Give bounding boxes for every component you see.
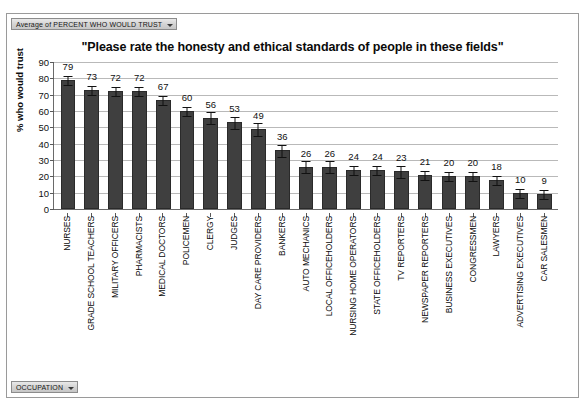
- x-axis-tick-label: TV REPORTERS: [396, 216, 406, 281]
- bar-slot: 24: [342, 62, 366, 209]
- chevron-down-icon: [68, 387, 74, 390]
- error-bar: [306, 161, 307, 174]
- bar[interactable]: 60: [180, 111, 195, 209]
- error-bar: [163, 96, 164, 106]
- bar-value-label: 24: [348, 151, 359, 162]
- y-axis-tick-label: 90: [38, 57, 49, 68]
- y-axis-tick-label: 30: [38, 155, 49, 166]
- x-axis-tick-label: GRADE SCHOOL TEACHERS: [86, 216, 96, 331]
- pivot-field-series-button[interactable]: Average of PERCENT WHO WOULD TRUST: [11, 18, 177, 30]
- y-axis-title: % who would trust: [14, 48, 25, 132]
- x-axis-label-slot: CAR SALESMEN: [532, 213, 556, 363]
- x-axis-tick-label: LOCAL OFFICEHOLDERS: [324, 216, 334, 316]
- bar-value-label: 23: [396, 152, 407, 163]
- x-axis-label-slot: NURSING HOME OPERATORS: [341, 213, 365, 363]
- error-bar: [258, 123, 259, 136]
- bar[interactable]: 36: [275, 150, 290, 209]
- bar-slot: 18: [485, 62, 509, 209]
- bar-value-label: 26: [325, 148, 336, 159]
- y-axis-tick-label: 60: [38, 106, 49, 117]
- pivot-field-category-button[interactable]: OCCUPATION: [11, 381, 78, 393]
- bar-value-label: 10: [515, 174, 526, 185]
- error-bar: [544, 190, 545, 200]
- bar-slot: 26: [318, 62, 342, 209]
- x-axis-label-slot: JUDGES: [222, 213, 246, 363]
- x-axis-label-slot: NURSES: [55, 213, 79, 363]
- bar-slot: 36: [270, 62, 294, 209]
- bar[interactable]: 24: [346, 170, 361, 209]
- error-bar: [472, 172, 473, 182]
- bar[interactable]: 10: [513, 193, 528, 209]
- bar-value-label: 26: [301, 148, 312, 159]
- x-axis-tick-label: DAY CARE PROVIDERS: [253, 216, 263, 309]
- bar[interactable]: 26: [322, 167, 337, 209]
- x-axis-tick-label: MEDICAL DOCTORS: [157, 216, 167, 297]
- bar[interactable]: 53: [227, 122, 242, 209]
- x-axis-label-slot: ADVERTISING EXECUTIVES: [508, 213, 532, 363]
- bar-slot: 49: [247, 62, 271, 209]
- error-bar: [496, 176, 497, 186]
- x-axis-tick-label: AUTO MECHANICS: [301, 216, 311, 291]
- bar[interactable]: 21: [418, 175, 433, 209]
- bar-value-label: 53: [229, 103, 240, 114]
- error-bar: [115, 87, 116, 97]
- bar[interactable]: 24: [370, 170, 385, 209]
- bar-value-label: 36: [277, 131, 288, 142]
- bar[interactable]: 20: [442, 176, 457, 209]
- bar-value-label: 20: [444, 157, 455, 168]
- bar-value-label: 49: [253, 110, 264, 121]
- y-axis-tick-label: 70: [38, 89, 49, 100]
- bar-slot: 23: [389, 62, 413, 209]
- error-bar: [210, 112, 211, 125]
- bar[interactable]: 26: [299, 167, 314, 209]
- x-axis-tick-label: BUSINESS EXECUTIVES: [444, 216, 454, 313]
- bar-slot: 73: [80, 62, 104, 209]
- plot-area: 0102030405060708090 79737272676056534936…: [53, 62, 558, 210]
- bar-value-label: 24: [372, 151, 383, 162]
- x-axis-label-slot: DAY CARE PROVIDERS: [246, 213, 270, 363]
- x-axis-label-slot: POLICEMEN: [174, 213, 198, 363]
- error-bar: [282, 145, 283, 158]
- bar[interactable]: 72: [132, 91, 147, 209]
- x-axis-tick-label: STATE OFFICEHOLDERS: [372, 216, 382, 315]
- bar-value-label: 56: [205, 99, 216, 110]
- x-axis-tick-label: POLICEMEN: [181, 216, 191, 265]
- bar-slot: 56: [199, 62, 223, 209]
- bar[interactable]: 72: [108, 91, 123, 209]
- x-axis-tick-label: CAR SALESMEN: [539, 216, 549, 281]
- x-axis-label-slot: GRADE SCHOOL TEACHERS: [79, 213, 103, 363]
- bar[interactable]: 20: [465, 176, 480, 209]
- error-bar: [425, 171, 426, 181]
- error-bar: [234, 117, 235, 130]
- bar-slot: 53: [223, 62, 247, 209]
- error-bar: [329, 161, 330, 174]
- bar-slot: 21: [413, 62, 437, 209]
- x-axis-label-slot: NEWSPAPER REPORTERS: [413, 213, 437, 363]
- x-axis-label-slot: MILITARY OFFICERS: [103, 213, 127, 363]
- bar[interactable]: 9: [537, 194, 552, 209]
- bar-value-label: 73: [86, 71, 97, 82]
- bar-value-label: 79: [63, 61, 74, 72]
- x-axis-label-slot: TV REPORTERS: [389, 213, 413, 363]
- y-axis-tick-label: 20: [38, 171, 49, 182]
- x-axis-label-slot: CLERGY: [198, 213, 222, 363]
- bar-slot: 26: [294, 62, 318, 209]
- bar[interactable]: 56: [203, 118, 218, 209]
- bar-slot: 20: [461, 62, 485, 209]
- x-axis-label-slot: STATE OFFICEHOLDERS: [365, 213, 389, 363]
- bar-slot: 72: [127, 62, 151, 209]
- bar[interactable]: 67: [156, 100, 171, 209]
- bar[interactable]: 23: [394, 171, 409, 209]
- bar-value-label: 60: [182, 92, 193, 103]
- bar[interactable]: 79: [61, 80, 76, 209]
- bar-slot: 72: [104, 62, 128, 209]
- x-axis-label-slot: BANKERS: [270, 213, 294, 363]
- x-axis-label-slot: BUSINESS EXECUTIVES: [437, 213, 461, 363]
- bar[interactable]: 18: [489, 180, 504, 209]
- bar-value-label: 72: [110, 72, 121, 83]
- plot-area-wrapper: 0102030405060708090 79737272676056534936…: [53, 62, 558, 210]
- bar[interactable]: 73: [84, 90, 99, 209]
- bar[interactable]: 49: [251, 129, 266, 209]
- error-bar: [401, 166, 402, 179]
- pivot-field-category-label: OCCUPATION: [16, 384, 63, 391]
